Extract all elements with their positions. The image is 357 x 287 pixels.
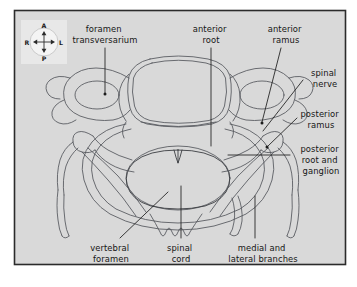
compass-label-right: R <box>25 39 30 46</box>
label-line: foramen <box>93 254 129 264</box>
label-line: ramus <box>308 120 335 130</box>
label-line: root <box>202 35 220 45</box>
label-line: cord <box>172 254 191 264</box>
label-line: posterior <box>300 144 339 154</box>
label-line: transversarium <box>73 35 138 45</box>
label-line: anterior <box>193 24 227 34</box>
label-line: medial and <box>238 243 286 253</box>
label-posterior-root-and-ganglion: posterior root and ganglion <box>300 144 341 176</box>
leader-dot-posterior-ramus <box>266 146 269 149</box>
leader-dot-foramen-transversarium <box>104 93 107 96</box>
label-line: ramus <box>273 35 300 45</box>
diagram-canvas: foramen transversarium anterior root ant… <box>0 0 357 287</box>
label-line: root and <box>302 155 338 165</box>
leader-dot-anterior-ramus <box>261 122 264 125</box>
label-anterior-ramus: anterior ramus <box>268 24 305 45</box>
label-vertebral-foramen: vertebral foramen <box>90 243 132 264</box>
label-line: anterior <box>268 24 302 34</box>
label-line: spinal <box>167 243 192 253</box>
label-line: foramen <box>86 24 122 34</box>
compass-label-anterior: A <box>42 22 47 29</box>
label-line: vertebral <box>90 243 129 253</box>
compass-label-left: L <box>59 39 63 46</box>
compass-label-posterior: P <box>42 55 47 62</box>
orientation-compass: A P R L <box>21 20 67 64</box>
label-line: lateral branches <box>228 254 297 264</box>
label-spinal-nerve: spinal nerve <box>311 68 339 89</box>
label-line: nerve <box>313 79 337 89</box>
anatomical-figure: foramen transversarium anterior root ant… <box>0 0 357 287</box>
label-line: spinal <box>311 68 336 78</box>
label-line: ganglion <box>303 166 340 176</box>
label-medial-and-lateral-branches: medial and lateral branches <box>228 243 297 264</box>
label-line: posterior <box>300 109 339 119</box>
